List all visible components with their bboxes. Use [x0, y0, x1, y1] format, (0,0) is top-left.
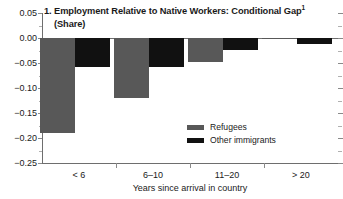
y-tick-major — [38, 163, 42, 164]
y-tick-major-right — [338, 113, 343, 114]
x-group-tick — [264, 163, 265, 168]
y-tick-label: 0.00 — [19, 33, 37, 43]
y-tick-minor-right — [338, 101, 342, 102]
x-group-tick — [116, 163, 117, 168]
y-tick-minor-right — [338, 151, 342, 152]
y-tick-major-right — [338, 88, 343, 89]
x-group-tick — [190, 163, 191, 168]
y-tick-label: −0.20 — [14, 133, 37, 143]
y-tick-major-right — [338, 63, 343, 64]
bar-other-immigrants — [149, 38, 184, 67]
y-tick-label: 0.05 — [19, 8, 37, 18]
y-tick-label: −0.05 — [14, 58, 37, 68]
bar-other-immigrants — [75, 38, 110, 67]
y-tick-minor-right — [338, 51, 342, 52]
x-tick-label: 6–10 — [143, 170, 163, 180]
y-tick-minor-right — [338, 76, 342, 77]
y-tick-major-right — [338, 38, 343, 39]
bar-refugees — [262, 38, 297, 39]
legend-label-other-immigrants: Other immigrants — [210, 134, 276, 147]
y-tick-major-right — [338, 163, 343, 164]
x-tick-label: < 6 — [73, 170, 86, 180]
legend-swatch-refugees — [187, 125, 204, 130]
bar-other-immigrants — [223, 38, 258, 50]
bar-refugees — [40, 38, 75, 133]
chart-title-footnote-marker: 1 — [302, 4, 305, 11]
y-tick-major-right — [338, 138, 343, 139]
y-tick-label: −0.25 — [14, 158, 37, 168]
x-axis-title: Years since arrival in country — [42, 183, 338, 193]
legend-item-refugees: Refugees — [187, 121, 276, 134]
plot-area: 0.050.00−0.05−0.10−0.15−0.20−0.25 < 66–1… — [42, 13, 338, 163]
bar-other-immigrants — [297, 38, 332, 44]
legend-label-refugees: Refugees — [210, 121, 247, 134]
bar-refugees — [188, 38, 223, 62]
y-tick-major-right — [338, 13, 343, 14]
x-tick-label: 11–20 — [215, 170, 239, 180]
chart-legend: Refugees Other immigrants — [187, 121, 276, 147]
legend-item-other-immigrants: Other immigrants — [187, 134, 276, 147]
bar-refugees — [114, 38, 149, 98]
x-tick-label: > 20 — [292, 170, 310, 180]
legend-swatch-other-immigrants — [187, 138, 204, 143]
y-tick-label: −0.10 — [14, 83, 37, 93]
y-tick-minor-right — [338, 26, 342, 27]
y-tick-label: −0.15 — [14, 108, 37, 118]
y-tick-minor-right — [338, 126, 342, 127]
